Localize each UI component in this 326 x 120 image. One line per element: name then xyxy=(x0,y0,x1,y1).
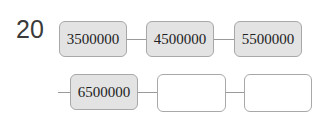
answer-box-6[interactable] xyxy=(244,74,312,112)
connector-line xyxy=(58,92,70,93)
sequence-box-2: 4500000 xyxy=(146,21,214,57)
problem-number: 20 xyxy=(16,15,44,44)
connector-line xyxy=(138,92,157,93)
sequence-box-1: 3500000 xyxy=(59,21,127,57)
sequence-box-3: 5500000 xyxy=(234,21,302,57)
sequence-box-4: 6500000 xyxy=(70,74,138,110)
connector-line xyxy=(127,39,147,40)
answer-box-5[interactable] xyxy=(157,74,226,112)
connector-line xyxy=(214,39,234,40)
connector-line xyxy=(226,92,244,93)
